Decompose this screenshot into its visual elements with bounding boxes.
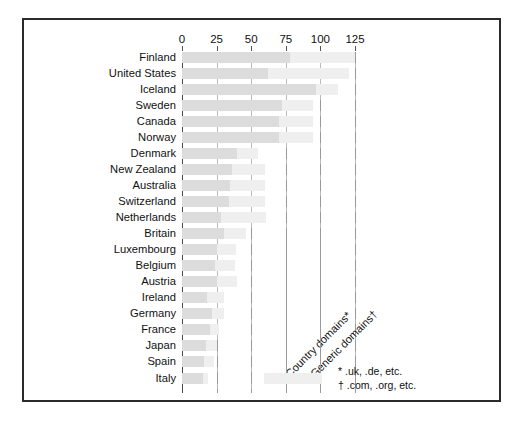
bar-segment [182,276,217,287]
bar-segment [212,308,223,319]
x-axis-tick-label: 0 [168,33,196,45]
gridline-segment [355,223,356,228]
gridline-segment [355,287,356,292]
bar-segment [182,292,207,303]
gridline-segment [286,175,287,180]
bar-row [182,228,246,239]
bar-segment [206,340,217,351]
gridline-segment [320,207,321,212]
bar-segment [182,260,215,271]
bar-segment [182,132,279,143]
bar-segment [182,373,203,384]
category-label: Australia [132,179,176,191]
bar-segment [203,373,209,384]
bar-segment [182,340,206,351]
bar-segment [215,260,234,271]
legend-swatch-generic [264,373,322,384]
category-label: France [141,323,176,335]
gridline-segment [355,143,356,148]
category-label: Japan [146,339,176,351]
bar-segment [182,52,290,63]
bar-row [182,260,235,271]
category-label: Sweden [136,99,176,111]
bar-row [182,132,313,143]
gridline-segment [251,287,252,292]
gridline-segment [217,384,218,389]
bar-segment [279,116,314,127]
x-axis-tick-mark [355,46,356,51]
category-label: Canada [137,115,176,127]
category-label: Spain [147,355,176,367]
x-axis-tick-mark [182,46,183,51]
gridline-segment [355,111,356,116]
bar-segment [182,244,217,255]
x-axis-tick-mark [286,46,287,51]
gridline-segment [251,367,252,372]
bar-segment [182,212,221,223]
gridline-segment [251,384,252,389]
legend-leader-line [320,228,321,393]
bar-segment [182,324,210,335]
category-label: Austria [141,275,176,287]
bar-segment [182,84,316,95]
category-label: New Zealand [110,163,176,175]
gridline-segment [320,111,321,116]
bar-row [182,244,236,255]
x-axis-tick-label: 75 [272,33,300,45]
x-axis-tick-label: 100 [306,33,334,45]
footnote-country-domains: * .uk, .de, etc. [338,365,402,377]
gridline-segment [355,191,356,196]
gridline-segment [320,143,321,148]
category-label: Denmark [131,147,176,159]
bar-segment [316,84,338,95]
category-label: Iceland [140,83,176,95]
bar-segment [182,148,237,159]
category-label: Belgium [136,259,176,271]
bar-row [182,356,214,367]
bar-row [182,212,266,223]
x-axis-tick-label: 125 [341,33,369,45]
gridline-segment [320,159,321,164]
bar-segment [237,148,258,159]
bar-segment [290,52,355,63]
category-label: Finland [139,51,176,63]
gridline-segment [286,191,287,196]
bar-segment [268,68,350,79]
bar-row [182,340,217,351]
x-axis-tick-mark [217,46,218,51]
bar-segment [207,292,224,303]
gridline-segment [355,127,356,132]
gridline-segment [355,303,356,308]
x-axis-tick-mark [251,46,252,51]
bar-row [182,292,224,303]
category-label: Norway [138,131,176,143]
gridline-segment [286,223,287,228]
legend-leader-line [286,232,287,393]
gridline-segment [217,367,218,372]
bar-segment [210,324,220,335]
gridline-segment [355,159,356,164]
bar-row [182,276,237,287]
gridline-segment [320,95,321,100]
gridline-segment [251,239,252,244]
bar-segment [224,228,246,239]
bar-segment [182,164,232,175]
x-axis-tick-label: 25 [203,33,231,45]
gridline-segment [355,271,356,276]
gridline-segment [286,159,287,164]
gridline-segment [320,127,321,132]
bar-segment [182,356,204,367]
bar-row [182,68,349,79]
bar-segment [182,100,282,111]
gridline-segment [251,303,252,308]
gridline-segment [320,175,321,180]
bar-segment [182,308,212,319]
bar-segment [232,164,265,175]
bar-segment [182,180,230,191]
bar-row [182,324,219,335]
gridline-segment [251,319,252,324]
gridline-segment [251,271,252,276]
gridline-segment [355,351,356,356]
bar-row [182,100,313,111]
category-label: Ireland [142,291,176,303]
